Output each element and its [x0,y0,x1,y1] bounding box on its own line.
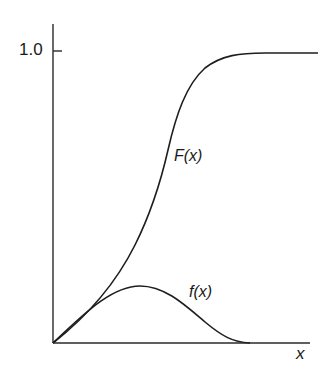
cdf-curve-F [53,53,318,343]
cdf-label: F(x) [174,147,202,165]
y-tick-label: 1.0 [19,40,43,60]
pdf-label: f(x) [189,283,212,301]
pdf-curve-f [53,286,250,343]
chart-canvas [0,0,336,380]
x-axis-label: x [296,344,305,364]
